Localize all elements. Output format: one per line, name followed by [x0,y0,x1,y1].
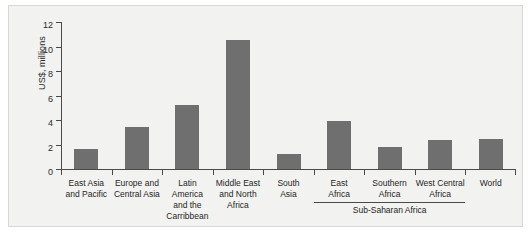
bar [378,147,402,169]
y-axis-line [61,22,62,170]
y-tick-label: 10 [31,50,53,51]
y-tick-mark [56,96,61,97]
x-tick-mark [515,170,516,175]
bar [428,140,452,169]
x-tick-mark [415,170,416,175]
y-tick-label: 12 [31,25,53,26]
y-tick-label: 8 [31,74,53,75]
x-tick-mark [213,170,214,175]
x-tick-mark [465,170,466,175]
bar [479,139,503,169]
y-tick-mark [56,145,61,146]
sub-saharan-group-bracket [314,202,466,203]
bar [226,40,250,169]
x-tick-mark [263,170,264,175]
y-tick-mark [56,47,61,48]
x-tick-mark [61,170,62,175]
bar [175,105,199,169]
x-tick-mark [314,170,315,175]
y-tick-label: 6 [31,99,53,100]
x-tick-mark [364,170,365,175]
bar [74,149,98,169]
y-tick-mark [56,120,61,121]
x-axis-label: World [461,178,520,189]
chart-figure: US$, millions 024681012 East Asia and Pa… [8,5,523,227]
y-tick-label: 2 [31,148,53,149]
y-tick-label: 4 [31,123,53,124]
x-axis-line [61,169,516,170]
x-tick-mark [162,170,163,175]
y-tick-mark [56,22,61,23]
bar [327,121,351,169]
y-tick-label: 0 [31,172,53,173]
bar [277,154,301,169]
sub-saharan-group-label: Sub-Saharan Africa [314,205,466,215]
y-tick-mark [56,71,61,72]
x-tick-mark [112,170,113,175]
bar [125,127,149,169]
plot-area: 024681012 [61,22,516,170]
